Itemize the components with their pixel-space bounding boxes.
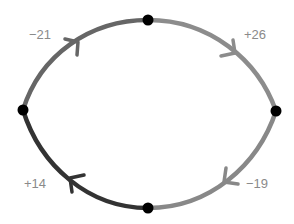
edge-bottom-to-left [23, 110, 148, 208]
cycle-diagram: −21 +26 −19 +14 [0, 0, 294, 224]
edge-label-top-to-right: +26 [244, 28, 266, 41]
edge-label-right-to-bottom: −19 [246, 177, 268, 190]
node-bottom [143, 203, 154, 214]
node-left [18, 105, 29, 116]
edge-label-left-to-top: −21 [29, 28, 51, 41]
edge-label-bottom-to-left: +14 [24, 177, 46, 190]
node-right [271, 106, 282, 117]
node-top [143, 15, 154, 26]
edge-right-to-bottom [148, 111, 276, 208]
